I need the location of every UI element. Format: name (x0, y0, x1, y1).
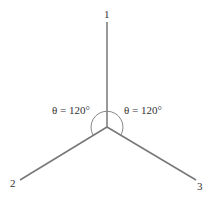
branch-3-line (107, 127, 196, 180)
angle-label-left: θ = 120° (52, 104, 90, 116)
branch-2-line (20, 127, 107, 180)
branch-2-label: 2 (10, 177, 16, 189)
angle-label-right: θ = 120° (124, 104, 162, 116)
diagram-canvas: 1 2 3 θ = 120° θ = 120° (0, 0, 214, 201)
branch-3-label: 3 (197, 180, 203, 192)
branch-1-label: 1 (104, 8, 110, 20)
